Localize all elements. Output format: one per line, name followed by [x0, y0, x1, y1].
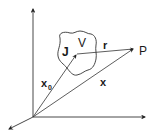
- label-r: r: [103, 39, 108, 51]
- label-J: J: [62, 45, 69, 59]
- label-V: V: [78, 36, 86, 50]
- label-P: P: [139, 44, 147, 58]
- label-x0-subscript: 0: [48, 84, 52, 91]
- x0-vector: [33, 55, 76, 117]
- x-vector: [33, 49, 133, 117]
- label-x0: x: [41, 77, 48, 89]
- vector-diagram: J V r P x 0 x: [0, 0, 156, 138]
- label-x: x: [100, 76, 107, 88]
- diagonal-axis: [9, 117, 33, 129]
